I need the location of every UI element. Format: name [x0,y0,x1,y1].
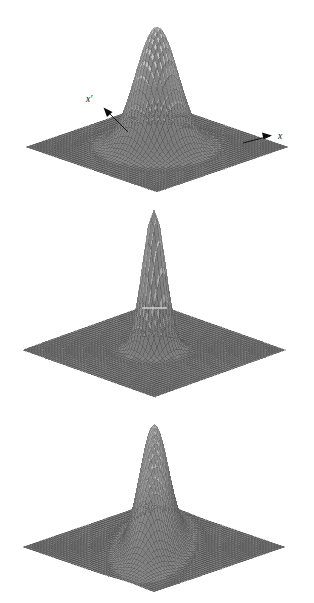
surface-panel-top: xx′ [0,0,314,201]
surface-plot-figure: xx′ [0,0,314,603]
surface-panel-middle [0,201,314,402]
x-axis-label: x [277,131,283,141]
surface-plot-bottom [0,402,314,603]
surface-plot-middle [0,201,314,402]
surface-panel-bottom [0,402,314,603]
surface-plot-top: xx′ [0,0,314,201]
x-prime-axis-label: x′ [85,94,93,104]
